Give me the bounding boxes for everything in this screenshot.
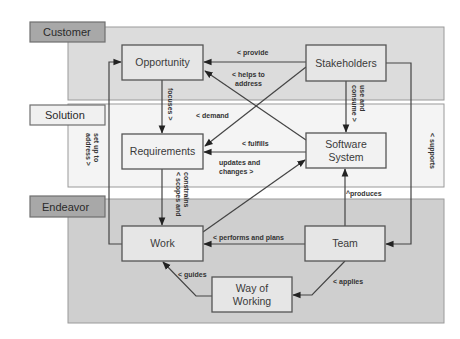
node-stakeholders: Stakeholders	[306, 45, 386, 81]
edge-label-supports: < supports	[428, 133, 436, 169]
edge-label-helps-to-address-2: address	[235, 80, 262, 87]
customer-area-label: Customer	[30, 22, 105, 42]
essence-kernel-diagram: Customer Solution Endeavor < provide < h…	[0, 0, 460, 339]
node-software-system-label-1: Software	[325, 138, 367, 150]
edge-label-scopes-and-constrains-2: constrains	[183, 172, 190, 208]
edge-label-updates-and-changes-2: changes >	[219, 168, 253, 176]
edge-label-produces: ^produces	[346, 190, 382, 198]
edge-label-set-up-to-address-1: set up to	[92, 133, 100, 162]
edge-label-guides: < guides	[178, 271, 207, 279]
edge-label-use-and-consume-1: use and	[359, 85, 366, 111]
edge-label-applies: < applies	[333, 278, 363, 286]
node-software-system: Software System	[306, 133, 386, 168]
node-opportunity: Opportunity	[122, 45, 203, 80]
node-way-of-working-label-1: Way of	[236, 282, 268, 294]
edge-label-demand: < demand	[196, 112, 229, 119]
edge-label-performs-and-plans: < performs and plans	[213, 234, 284, 242]
edge-label-use-and-consume-2: consume >	[351, 85, 358, 122]
solution-area-label: Solution	[30, 105, 105, 125]
node-work: Work	[122, 226, 203, 261]
edge-label-provide: < provide	[237, 49, 268, 57]
node-way-of-working-label-2: Working	[233, 295, 271, 307]
node-team-label: Team	[332, 237, 358, 249]
node-requirements-label: Requirements	[130, 145, 195, 157]
edge-label-set-up-to-address-2: address >	[85, 133, 92, 166]
node-team: Team	[305, 226, 385, 261]
solution-label-text: Solution	[45, 109, 85, 121]
edge-label-scopes-and-constrains-1: < scopes and	[174, 172, 182, 217]
endeavor-label-text: Endeavor	[42, 201, 89, 213]
edge-label-helps-to-address-1: < helps to	[232, 71, 265, 79]
node-way-of-working: Way of Working	[212, 277, 292, 312]
edge-label-updates-and-changes-1: updates and	[219, 159, 260, 167]
node-software-system-label-2: System	[328, 151, 363, 163]
customer-label-text: Customer	[43, 26, 91, 38]
node-work-label: Work	[150, 237, 175, 249]
edge-label-focuses: focuses >	[167, 88, 174, 121]
node-opportunity-label: Opportunity	[135, 56, 190, 68]
node-requirements: Requirements	[122, 134, 203, 169]
endeavor-area-label: Endeavor	[30, 196, 105, 217]
node-stakeholders-label: Stakeholders	[315, 57, 376, 69]
edge-label-fulfills: < fulfills	[242, 140, 269, 147]
